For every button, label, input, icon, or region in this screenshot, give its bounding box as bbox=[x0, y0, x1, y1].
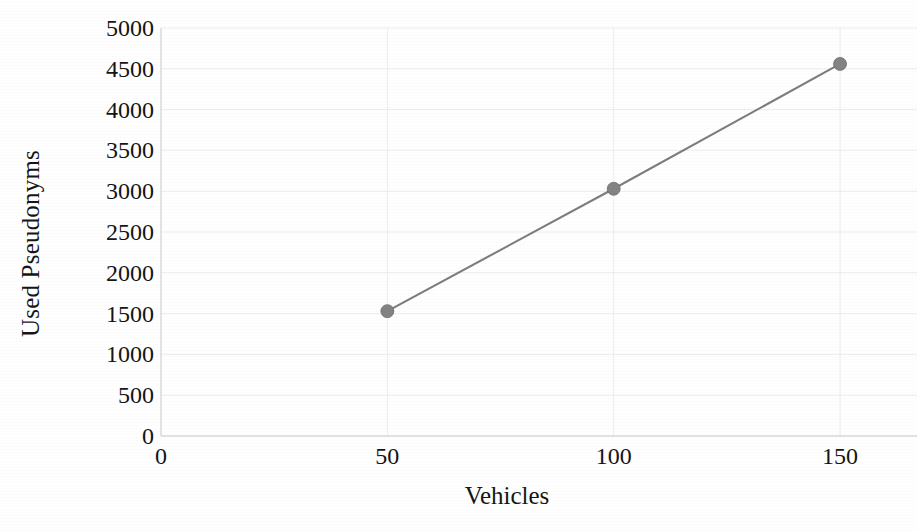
x-axis-tick-label: 50 bbox=[332, 444, 442, 468]
y-axis-title: Used Pseudonyms bbox=[0, 0, 62, 531]
x-axis-tick-labels: 050100150 bbox=[0, 0, 917, 531]
chart-figure: 0500100015002000250030003500400045005000… bbox=[0, 0, 917, 531]
x-axis-tick-label: 150 bbox=[785, 444, 895, 468]
y-axis-title-text: Used Pseudonyms bbox=[17, 150, 45, 337]
x-axis-tick-label: 0 bbox=[106, 444, 216, 468]
x-axis-title-text: Vehicles bbox=[465, 482, 550, 510]
x-axis-tick-label: 100 bbox=[559, 444, 669, 468]
x-axis-title: Vehicles bbox=[161, 482, 917, 510]
